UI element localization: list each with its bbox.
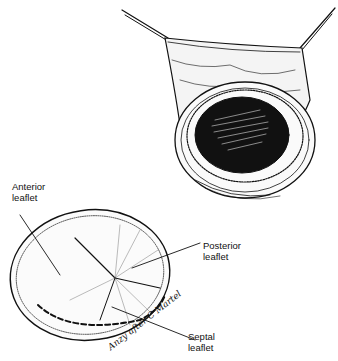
label-line: Septal <box>188 331 215 342</box>
bottom-panel-valve <box>2 199 200 350</box>
label-line: Anterior <box>12 181 45 192</box>
label-posterior-leaflet: Posterior leaflet <box>203 240 241 262</box>
top-panel-atrium <box>122 8 335 199</box>
label-line: leaflet <box>12 192 45 203</box>
label-line: leaflet <box>203 251 241 262</box>
label-septal-leaflet: Septal leaflet <box>188 331 215 353</box>
label-anterior-leaflet: Anterior leaflet <box>12 181 45 203</box>
label-line: leaflet <box>188 342 215 353</box>
label-line: Posterior <box>203 240 241 251</box>
